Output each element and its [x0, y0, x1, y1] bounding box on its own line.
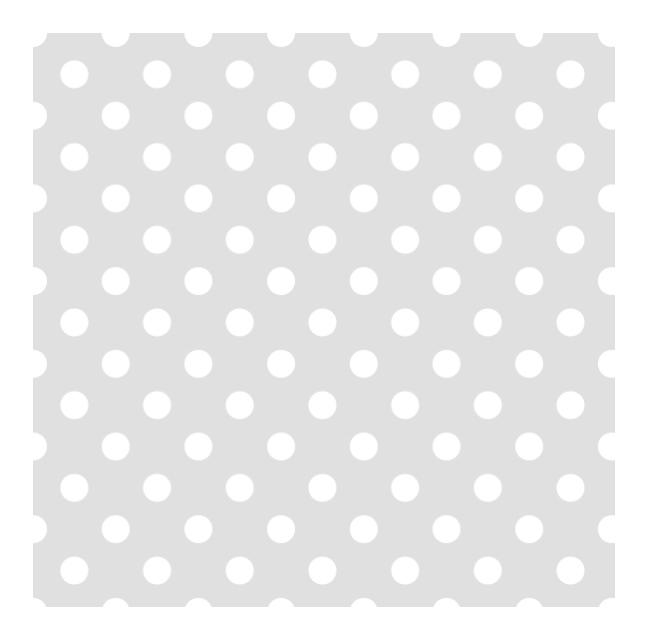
polka-dot-svg — [33, 33, 615, 607]
canvas-root — [0, 0, 652, 640]
panel-fill-rect — [33, 33, 615, 607]
polka-dot-panel — [33, 33, 615, 607]
